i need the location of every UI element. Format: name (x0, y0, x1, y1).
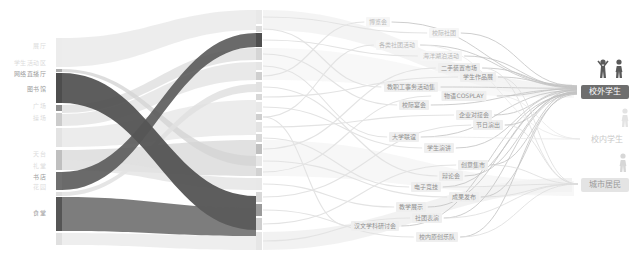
persons-icon-city-residents (598, 152, 632, 178)
middle-node[interactable]: 学生作品展 (460, 72, 496, 82)
left-node-label: 书店 (33, 172, 46, 181)
left-node-label: 操场 (33, 113, 46, 122)
left-node-label: 食堂 (33, 208, 46, 217)
node-bar-segment[interactable] (256, 168, 262, 176)
middle-node[interactable]: 教职工事务活动集 (384, 82, 438, 92)
flow-line (421, 137, 580, 139)
node-bar-segment[interactable] (256, 62, 262, 70)
node-bar-segment[interactable] (256, 82, 262, 92)
middle-node[interactable]: 成果发布 (449, 192, 479, 202)
middle-node[interactable]: 大学联谊 (389, 132, 419, 142)
middle-node[interactable]: 物语COSPLAY (441, 91, 486, 101)
middle-node[interactable]: 节日演出 (473, 120, 503, 130)
node-bar-segment[interactable] (56, 197, 62, 231)
node-bar-segment[interactable] (256, 232, 262, 250)
left-node-label: 网络直播厅 (14, 69, 47, 78)
node-bar-segment[interactable] (256, 218, 262, 230)
left-node-label: 礼堂 (33, 161, 46, 170)
middle-node[interactable]: 电子竞技 (411, 182, 441, 192)
left-node-label: 学生活动区 (14, 58, 47, 67)
left-node-label: 天台 (33, 149, 46, 158)
node-bar-segment[interactable] (56, 113, 62, 126)
flow-line (263, 115, 454, 127)
node-bar-segment[interactable] (56, 150, 62, 170)
node-bar-segment[interactable] (56, 233, 62, 245)
node-bar-segment[interactable] (256, 114, 262, 120)
middle-node[interactable]: 社团表演 (412, 213, 442, 223)
node-bar-segment[interactable] (56, 172, 62, 190)
node-bar-segment[interactable] (256, 48, 262, 60)
left-node-label: 展厅 (33, 41, 46, 50)
middle-node[interactable]: 校际宴会 (399, 100, 429, 110)
node-bar-segment[interactable] (56, 38, 62, 67)
middle-node[interactable]: 校际社团 (429, 28, 459, 38)
left-node-label: 花园 (33, 182, 46, 191)
right-node-off-campus-students[interactable]: 校外学生 (581, 85, 629, 99)
node-bar-segment[interactable] (56, 192, 62, 196)
flow-ribbons-canvas (0, 0, 644, 263)
middle-node[interactable]: 各类社团活动 (376, 40, 418, 50)
node-bar-segment[interactable] (256, 156, 262, 166)
middle-node[interactable]: 创意集市 (458, 160, 488, 170)
flow-line (505, 125, 578, 184)
node-bar-segment[interactable] (56, 105, 62, 111)
node-bar-segment[interactable] (256, 178, 262, 190)
node-bar-segment[interactable] (56, 73, 62, 103)
node-bar-segment[interactable] (56, 69, 62, 72)
middle-node[interactable]: 博览会 (366, 17, 390, 27)
persons-icon-off-campus-students (594, 58, 628, 84)
node-bar-segment[interactable] (256, 94, 262, 100)
node-bar-segment[interactable] (256, 102, 262, 112)
middle-node[interactable]: 汉文学科研讨会 (351, 221, 399, 231)
middle-node[interactable]: 海洋湖泊活动 (420, 51, 462, 61)
right-node-city-residents[interactable]: 城市居民 (581, 178, 629, 192)
left-node-label: 图书馆 (27, 84, 47, 93)
node-bar-segment[interactable] (256, 204, 262, 216)
middle-node[interactable]: 教学展示 (396, 202, 426, 212)
node-bar-segment[interactable] (256, 26, 262, 32)
node-bar-segment[interactable] (256, 10, 262, 24)
middle-node[interactable]: 学生演讲 (424, 143, 454, 153)
right-node-on-campus-students[interactable]: 校内学生 (583, 133, 631, 147)
node-bar-segment[interactable] (256, 144, 262, 154)
middle-node[interactable]: 企业对接会 (456, 110, 492, 120)
node-bar-segment[interactable] (256, 122, 262, 132)
middle-node[interactable]: 校内原创乐队 (416, 232, 458, 242)
node-bar-segment[interactable] (256, 134, 262, 142)
persons-icon-on-campus-students (600, 107, 634, 133)
node-bar-segment[interactable] (256, 192, 262, 202)
node-bar-segment[interactable] (56, 128, 62, 147)
node-bar-segment[interactable] (256, 33, 262, 47)
left-node-label: 广场 (33, 101, 46, 110)
sankey-diagram: 展厅学生活动区网络直播厅图书馆广场操场天台礼堂书店花园食堂博览会校际社团各类社团… (0, 0, 644, 263)
node-bar-segment[interactable] (256, 72, 262, 80)
middle-node[interactable]: 辩论会 (439, 171, 463, 181)
